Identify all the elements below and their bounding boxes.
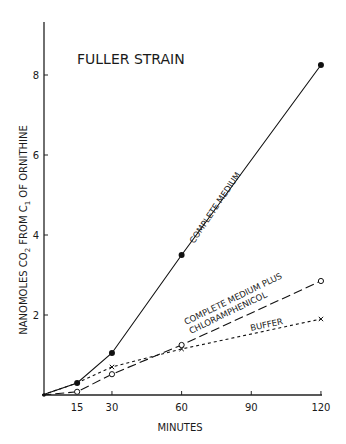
x-marker bbox=[110, 365, 114, 369]
series-2 bbox=[42, 317, 323, 395]
filled-circle-marker bbox=[179, 252, 185, 258]
filled-circle-marker bbox=[318, 62, 324, 68]
series-label-complete-medium: COMPLETE MEDIUM bbox=[187, 170, 242, 245]
x-tick-label: 30 bbox=[106, 402, 119, 413]
open-circle-marker bbox=[109, 372, 114, 377]
series-1 bbox=[42, 278, 323, 395]
open-circle-marker bbox=[75, 389, 80, 394]
y-ticks: 2468 bbox=[33, 70, 48, 321]
y-tick-label: 8 bbox=[33, 70, 39, 81]
x-ticks: 15306090120 bbox=[71, 391, 331, 413]
line-chart: 2468 15306090120 FULLER STRAIN MINUTES N… bbox=[0, 0, 346, 444]
x-tick-label: 15 bbox=[71, 402, 84, 413]
series-layer bbox=[42, 62, 324, 397]
x-tick-label: 60 bbox=[175, 402, 188, 413]
x-tick-label: 90 bbox=[245, 402, 258, 413]
origin-marker bbox=[42, 393, 46, 397]
open-circle-marker bbox=[318, 278, 323, 283]
filled-circle-marker bbox=[109, 350, 115, 356]
y-tick-label: 6 bbox=[33, 150, 39, 161]
y-tick-label: 2 bbox=[33, 310, 39, 321]
chart-title: FULLER STRAIN bbox=[77, 51, 185, 67]
x-tick-label: 120 bbox=[311, 402, 330, 413]
y-axis-label: NANOMOLES CO2 FROM C1 OF ORNITHINE bbox=[18, 125, 32, 335]
x-axis-label: MINUTES bbox=[157, 422, 202, 433]
y-tick-label: 4 bbox=[33, 230, 39, 241]
